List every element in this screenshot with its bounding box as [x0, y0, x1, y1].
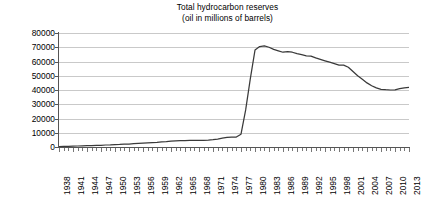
- x-axis-tick: [115, 148, 116, 152]
- x-axis-tick: [288, 148, 289, 151]
- x-axis-tick: [278, 148, 279, 151]
- x-axis-tick: [241, 148, 242, 152]
- x-axis-tick: [227, 148, 228, 152]
- x-axis-tick: [255, 148, 256, 152]
- x-axis-tick: [87, 148, 88, 152]
- y-axis-tick: [55, 104, 59, 105]
- x-axis-tick: [106, 148, 107, 151]
- x-axis-tick-label: 1983: [273, 176, 281, 195]
- x-axis-tick: [157, 148, 158, 152]
- x-axis-tick: [204, 148, 205, 151]
- x-axis-tick: [180, 148, 181, 151]
- x-axis-tick: [325, 148, 326, 152]
- x-axis-tick: [124, 148, 125, 151]
- x-axis-tick: [362, 148, 363, 151]
- x-axis-tick: [185, 148, 186, 152]
- x-axis-tick: [339, 148, 340, 152]
- x-axis-tick-label: 1944: [91, 176, 99, 195]
- x-axis-tick: [78, 148, 79, 151]
- x-axis-tick-label: 1974: [231, 176, 239, 195]
- x-axis-tick-label: 1956: [147, 176, 155, 195]
- x-axis-tick: [269, 148, 270, 152]
- x-axis-tick-label: 1947: [105, 176, 113, 195]
- x-axis-tick: [334, 148, 335, 151]
- x-axis-tick: [246, 148, 247, 151]
- data-series-line: [59, 33, 409, 147]
- x-axis-tick-label: 1959: [161, 176, 169, 195]
- x-axis-tick: [152, 148, 153, 151]
- x-axis-tick: [386, 148, 387, 151]
- x-axis-tick-label: 2004: [371, 176, 379, 195]
- x-axis-tick-label: 1998: [343, 176, 351, 195]
- x-axis-tick: [381, 148, 382, 152]
- x-axis-tick: [376, 148, 377, 151]
- x-axis-tick-label: 1989: [301, 176, 309, 195]
- x-axis-tick: [222, 148, 223, 151]
- x-axis-tick: [73, 148, 74, 152]
- y-axis-tick: [55, 90, 59, 91]
- x-axis-tick: [96, 148, 97, 151]
- x-axis-tick: [367, 148, 368, 152]
- x-axis-tick: [120, 148, 121, 151]
- x-axis-tick-label: 2007: [385, 176, 393, 195]
- x-axis-tick: [166, 148, 167, 151]
- y-axis-tick: [55, 119, 59, 120]
- x-axis-tick: [101, 148, 102, 152]
- x-axis-tick: [59, 148, 60, 152]
- x-axis-tick: [395, 148, 396, 152]
- x-axis-tick-label: 1992: [315, 176, 323, 195]
- x-axis-tick-label: 1980: [259, 176, 267, 195]
- x-axis-tick: [68, 148, 69, 151]
- x-axis-tick: [134, 148, 135, 151]
- y-axis-tick: [55, 33, 59, 34]
- x-axis-tick-label: 1977: [245, 176, 253, 195]
- x-axis-tick: [148, 148, 149, 151]
- x-axis-tick: [264, 148, 265, 151]
- x-axis-tick: [400, 148, 401, 151]
- x-axis-tick: [311, 148, 312, 152]
- x-axis-tick: [129, 148, 130, 152]
- y-axis-tick: [55, 76, 59, 77]
- x-axis-tick-label: 2001: [357, 176, 365, 195]
- x-axis-tick: [306, 148, 307, 151]
- x-axis-tick: [143, 148, 144, 152]
- x-axis-tick-label: 1995: [329, 176, 337, 195]
- x-axis-tick-label: 1965: [189, 176, 197, 195]
- x-axis-tick: [348, 148, 349, 151]
- x-axis-tick: [260, 148, 261, 151]
- x-axis-tick: [208, 148, 209, 151]
- y-axis-tick: [55, 62, 59, 63]
- x-axis-tick: [297, 148, 298, 152]
- x-axis-tick: [316, 148, 317, 151]
- x-axis-tick: [358, 148, 359, 151]
- x-axis-tick: [330, 148, 331, 151]
- x-axis-tick: [110, 148, 111, 151]
- x-axis-tick-label: 1971: [217, 176, 225, 195]
- x-axis-tick: [199, 148, 200, 152]
- x-axis-tick-label: 2010: [399, 176, 407, 195]
- x-axis-tick: [176, 148, 177, 151]
- x-axis-tick: [162, 148, 163, 151]
- x-axis-tick-label: 1950: [119, 176, 127, 195]
- x-axis-tick: [190, 148, 191, 151]
- x-axis-tick: [283, 148, 284, 152]
- x-axis-tick: [404, 148, 405, 151]
- x-axis-tick: [236, 148, 237, 151]
- x-axis-tick-label: 1941: [77, 176, 85, 195]
- x-axis-tick: [409, 148, 410, 152]
- x-axis-tick: [344, 148, 345, 151]
- x-axis-tick: [194, 148, 195, 151]
- x-axis-tick: [274, 148, 275, 151]
- x-axis-tick: [390, 148, 391, 151]
- x-axis-tick: [232, 148, 233, 151]
- x-axis-tick: [372, 148, 373, 151]
- x-axis-tick: [302, 148, 303, 151]
- x-axis-tick: [171, 148, 172, 152]
- y-axis-tick: [55, 133, 59, 134]
- x-axis-tick: [82, 148, 83, 151]
- x-axis-tick-label: 1968: [203, 176, 211, 195]
- x-axis-tick: [64, 148, 65, 151]
- x-axis-tick-label: 1962: [175, 176, 183, 195]
- x-axis-tick: [138, 148, 139, 151]
